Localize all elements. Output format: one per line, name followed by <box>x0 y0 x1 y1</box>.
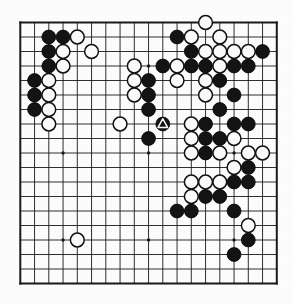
white-stone[interactable] <box>199 88 213 102</box>
white-stone[interactable] <box>241 45 255 59</box>
white-stone[interactable] <box>127 88 141 102</box>
black-stone[interactable] <box>184 45 198 59</box>
white-stone[interactable] <box>170 74 184 88</box>
white-stone[interactable] <box>241 146 255 160</box>
white-stone[interactable] <box>184 117 198 131</box>
white-stone[interactable] <box>113 117 127 131</box>
white-stone[interactable] <box>42 117 56 131</box>
white-stone[interactable] <box>85 45 99 59</box>
white-stone[interactable] <box>184 146 198 160</box>
black-stone[interactable] <box>184 59 198 73</box>
star-point <box>61 238 64 241</box>
black-stone[interactable] <box>227 117 241 131</box>
white-stone[interactable] <box>56 45 70 59</box>
black-stone[interactable] <box>42 59 56 73</box>
star-point <box>232 151 235 154</box>
star-point <box>232 238 235 241</box>
black-stone[interactable] <box>199 146 213 160</box>
black-stone[interactable] <box>170 30 184 44</box>
star-point <box>147 64 150 67</box>
star-point <box>61 151 64 154</box>
black-stone[interactable] <box>28 103 42 117</box>
black-stone[interactable] <box>184 204 198 218</box>
black-stone[interactable] <box>56 30 70 44</box>
white-stone[interactable] <box>127 59 141 73</box>
white-stone[interactable] <box>227 45 241 59</box>
black-stone[interactable] <box>199 190 213 204</box>
black-stone[interactable] <box>213 132 227 146</box>
star-point <box>147 151 150 154</box>
white-stone[interactable] <box>184 175 198 189</box>
black-stone[interactable] <box>213 190 227 204</box>
black-stone[interactable] <box>227 248 241 262</box>
black-stone[interactable] <box>142 88 156 102</box>
black-stone[interactable] <box>213 103 227 117</box>
black-stone[interactable] <box>241 59 255 73</box>
black-stone[interactable] <box>241 175 255 189</box>
black-stone[interactable] <box>42 45 56 59</box>
black-stone[interactable] <box>241 117 255 131</box>
white-stone[interactable] <box>42 88 56 102</box>
black-stone[interactable] <box>142 103 156 117</box>
black-stone[interactable] <box>28 88 42 102</box>
star-point <box>147 238 150 241</box>
white-stone[interactable] <box>56 59 70 73</box>
white-stone[interactable] <box>199 45 213 59</box>
black-stone[interactable] <box>227 204 241 218</box>
black-stone[interactable] <box>170 204 184 218</box>
go-board-canvas[interactable] <box>0 0 293 304</box>
white-stone[interactable] <box>199 16 213 30</box>
white-stone[interactable] <box>227 132 241 146</box>
black-stone[interactable] <box>213 74 227 88</box>
white-stone[interactable] <box>256 146 270 160</box>
black-stone[interactable] <box>199 132 213 146</box>
black-stone[interactable] <box>227 59 241 73</box>
white-stone[interactable] <box>213 59 227 73</box>
black-stone[interactable] <box>142 132 156 146</box>
white-stone[interactable] <box>170 59 184 73</box>
white-stone[interactable] <box>213 30 227 44</box>
white-stone[interactable] <box>227 161 241 175</box>
white-stone[interactable] <box>213 45 227 59</box>
white-stone[interactable] <box>42 74 56 88</box>
black-stone[interactable] <box>227 175 241 189</box>
black-stone[interactable] <box>156 59 170 73</box>
black-stone[interactable] <box>28 74 42 88</box>
white-stone[interactable] <box>184 30 198 44</box>
white-stone[interactable] <box>213 175 227 189</box>
white-stone[interactable] <box>184 132 198 146</box>
black-stone[interactable] <box>42 30 56 44</box>
black-stone[interactable] <box>241 161 255 175</box>
white-stone[interactable] <box>127 74 141 88</box>
white-stone[interactable] <box>42 103 56 117</box>
black-stone[interactable] <box>256 45 270 59</box>
white-stone[interactable] <box>199 74 213 88</box>
white-stone[interactable] <box>241 219 255 233</box>
white-stone[interactable] <box>199 175 213 189</box>
white-stone[interactable] <box>70 233 84 247</box>
white-stone[interactable] <box>184 190 198 204</box>
white-stone[interactable] <box>213 146 227 160</box>
black-stone[interactable] <box>199 117 213 131</box>
black-stone[interactable] <box>227 88 241 102</box>
black-stone[interactable] <box>241 233 255 247</box>
white-stone[interactable] <box>70 30 84 44</box>
black-stone[interactable] <box>142 74 156 88</box>
black-stone[interactable] <box>199 59 213 73</box>
go-board-container <box>0 0 293 304</box>
